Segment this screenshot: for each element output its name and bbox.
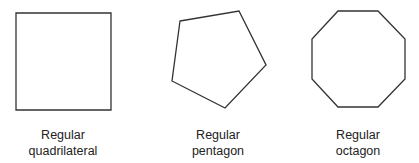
square-shape [16, 13, 111, 110]
label-line: Regular [158, 127, 278, 143]
label-line: Regular [298, 127, 418, 143]
square-label: Regular quadrilateral [3, 127, 123, 159]
label-line: octagon [298, 143, 418, 159]
label-line: Regular [3, 127, 123, 143]
label-line: pentagon [158, 143, 278, 159]
pentagon-shape [172, 11, 266, 108]
octagon-label: Regular octagon [298, 127, 418, 159]
label-line: quadrilateral [3, 143, 123, 159]
octagon-shape [312, 11, 405, 107]
pentagon-label: Regular pentagon [158, 127, 278, 159]
